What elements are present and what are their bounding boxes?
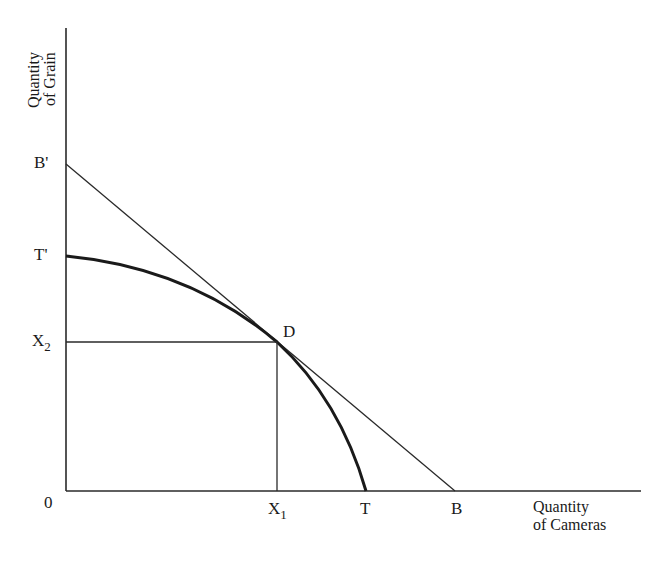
b-prime-label: B' [34, 153, 48, 172]
ppf-diagram: Quantity of Grain B' T' X2 0 D X1 T B Qu… [0, 0, 663, 563]
t-label: T [360, 499, 371, 518]
point-d-label: D [283, 322, 295, 341]
origin-label: 0 [44, 493, 53, 512]
svg-text:of Grain: of Grain [41, 52, 58, 106]
x1-label: X1 [268, 499, 287, 522]
y-axis-title: Quantity of Grain [25, 52, 58, 108]
x-axis-title-line1: Quantity [533, 498, 589, 516]
production-possibility-curve [66, 256, 366, 491]
t-prime-label: T' [34, 245, 47, 264]
x2-label: X2 [32, 331, 51, 354]
x-axis-title-line2: of Cameras [533, 516, 606, 533]
b-label: B [451, 499, 462, 518]
